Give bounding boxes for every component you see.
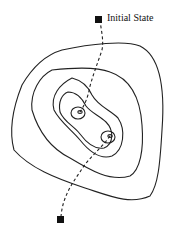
search-path-1 [80, 20, 103, 112]
contour-diagram: Initial State [0, 0, 172, 234]
contour-outer [12, 43, 163, 200]
final-state-marker [57, 216, 64, 223]
initial-state-label: Initial State [107, 12, 153, 23]
contour-svg [0, 0, 172, 234]
initial-state-marker [95, 16, 102, 23]
